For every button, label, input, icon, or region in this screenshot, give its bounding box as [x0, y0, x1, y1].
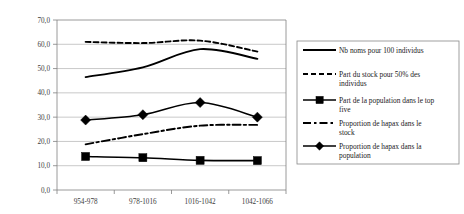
y-tick-label: 40,0: [37, 89, 50, 97]
data-point-marker-square: [82, 152, 90, 160]
x-tick-label: 954-978: [74, 198, 98, 206]
line-chart: 70,060,050,040,030,020,010,00,0 954-9789…: [0, 0, 464, 214]
data-point-marker-square: [196, 156, 204, 164]
y-tick-label: 50,0: [37, 65, 50, 73]
y-tick-label: 10,0: [37, 162, 50, 170]
y-tick-label: 60,0: [37, 41, 50, 49]
data-point-marker-square: [139, 154, 147, 162]
legend-item-3[interactable]: Part de la population dans le topfive: [299, 92, 455, 119]
x-tick-label: 1016-1042: [185, 198, 217, 206]
x-tick-label: 1042-1066: [242, 198, 274, 206]
legend-item-hitarea[interactable]: [299, 115, 455, 142]
legend-item-4[interactable]: Proportion de hapax dans lestock: [299, 115, 455, 142]
legend-item-hitarea[interactable]: [299, 92, 455, 119]
y-tick-label: 30,0: [37, 114, 50, 122]
x-tick-label: 978-1016: [129, 198, 157, 206]
legend-item-hitarea[interactable]: [299, 138, 455, 165]
data-point-marker-square: [253, 157, 261, 165]
legend-item-hitarea[interactable]: [299, 42, 455, 60]
legend-item-5[interactable]: Proportion de hapax dans lapopulation: [299, 138, 455, 165]
y-tick-label: 70,0: [37, 17, 50, 25]
legend-item-2[interactable]: Part du stock pour 50% desindividus: [299, 66, 455, 93]
y-tick-label: 0,0: [41, 187, 50, 195]
chart-container: 70,060,050,040,030,020,010,00,0 954-9789…: [0, 0, 464, 214]
y-tick-label: 20,0: [37, 138, 50, 146]
legend-item-1[interactable]: Nb noms pour 100 individus: [299, 42, 455, 60]
legend-item-hitarea[interactable]: [299, 66, 455, 93]
